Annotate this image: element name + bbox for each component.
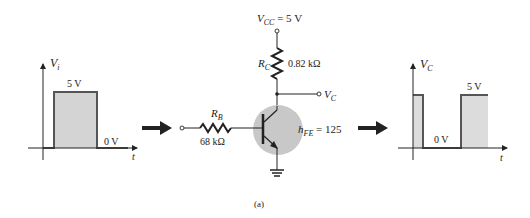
rc-label: RC <box>257 57 271 72</box>
right-arrow-icon <box>358 121 388 135</box>
output-axis-label: VC <box>420 57 433 73</box>
output-pulse-fill-1 <box>413 95 423 148</box>
input-time-label: t <box>132 151 135 162</box>
input-axis-label: Vi <box>50 56 60 72</box>
input-high-label: 5 V <box>67 78 82 89</box>
input-pulse-fill <box>54 92 97 148</box>
rb-value: 68 kΩ <box>200 136 225 147</box>
output-high-label: 5 V <box>467 81 482 92</box>
hfe-label: hFE = 125 <box>298 123 342 138</box>
vcc-terminal <box>275 29 279 33</box>
output-time-label: t <box>500 152 503 163</box>
vc-terminal <box>317 92 321 96</box>
output-pulse-fill-2 <box>461 95 488 148</box>
input-low-label: 0 V <box>104 136 119 147</box>
rb-label: RB <box>210 107 223 122</box>
figure-caption: (a) <box>254 199 264 209</box>
input-waveform: Vi 5 V 0 V t <box>28 56 137 162</box>
vcc-label: VCC = 5 V <box>257 12 302 27</box>
rb-resistor <box>200 124 231 132</box>
vc-label: VC <box>324 88 337 103</box>
output-waveform: VC 5 V 0 V t <box>398 57 507 163</box>
rc-resistor <box>272 48 282 79</box>
output-low-label: 0 V <box>434 134 449 145</box>
right-arrow-icon <box>142 121 172 135</box>
transistor-body <box>253 105 303 155</box>
rc-value: 0.82 kΩ <box>288 58 320 69</box>
input-terminal <box>180 126 184 130</box>
ground-icon <box>270 170 284 176</box>
transistor-inverter-diagram: Vi 5 V 0 V t VCC = 5 V RC 0.82 kΩ VC <box>0 0 530 218</box>
bjt-circuit: VCC = 5 V RC 0.82 kΩ VC hFE = 125 <box>180 12 342 176</box>
